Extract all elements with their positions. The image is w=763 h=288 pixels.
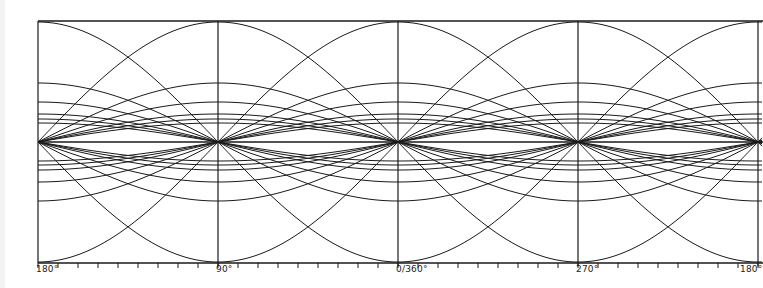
sinusoid-diagram (0, 0, 763, 288)
axis-label-90: 90° (216, 264, 233, 274)
axis-label-0-360: 0/360° (396, 264, 428, 274)
axis-label-180-left: 180° (36, 264, 58, 274)
axis-label-180-right: 180° (740, 264, 762, 274)
axis-label-270: 270° (576, 264, 598, 274)
